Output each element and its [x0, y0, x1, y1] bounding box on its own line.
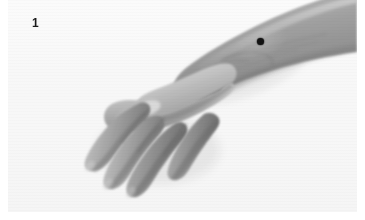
arm-vector — [8, 0, 357, 212]
photo-vignette — [8, 0, 357, 212]
arm-illustration — [8, 0, 357, 212]
acupoint-marker — [257, 38, 264, 45]
photograph: 1 — [8, 0, 357, 212]
figure-number: 1 — [32, 17, 39, 29]
figure-plate: 1 — [0, 0, 365, 220]
